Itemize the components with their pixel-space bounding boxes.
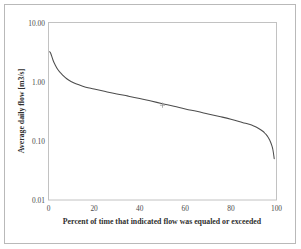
y-tick-label-10: 10.00 — [28, 19, 45, 28]
y-axis-title: Average daily flow [m3/s] — [17, 68, 26, 153]
y-tick-label-0.01: 0.01 — [32, 196, 45, 205]
x-tick-label-80: 80 — [227, 204, 235, 213]
x-tick-label-20: 20 — [90, 204, 98, 213]
x-tick-label-100: 100 — [271, 204, 282, 213]
x-axis-title: Percent of time that indicated flow was … — [63, 217, 262, 226]
plot-area-frame — [49, 23, 277, 201]
x-tick-label-40: 40 — [136, 204, 144, 213]
x-tick-label-0: 0 — [47, 204, 51, 213]
x-tick-label-60: 60 — [182, 204, 190, 213]
y-tick-label-1: 1.00 — [32, 78, 45, 87]
flow-duration-chart: 10.00 1.00 0.10 0.01 0 20 40 60 80 100 P… — [0, 0, 301, 249]
chart-figure: 10.00 1.00 0.10 0.01 0 20 40 60 80 100 P… — [0, 0, 301, 249]
y-tick-label-0.10: 0.10 — [32, 137, 45, 146]
